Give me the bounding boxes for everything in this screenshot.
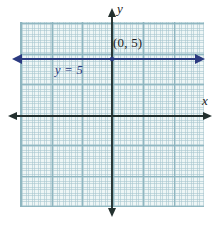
x-axis-right-arrowhead — [203, 112, 212, 120]
x-axis-left-arrowhead — [8, 112, 17, 120]
coordinate-plane-figure: y x (0, 5) y = 5 — [0, 0, 219, 228]
y-axis-label: y — [117, 2, 123, 15]
y-axis-top-arrowhead — [108, 8, 116, 17]
x-axis-label: x — [202, 94, 208, 107]
plot-line-right-arrowhead — [195, 54, 205, 64]
plot-line-y-equals-5 — [12, 54, 205, 64]
line-equation-label: y = 5 — [55, 64, 83, 77]
y-intercept-point-label: (0, 5) — [113, 36, 142, 49]
x-axis — [8, 112, 212, 120]
y-axis-bottom-arrowhead — [108, 208, 116, 217]
plot-line-left-arrowhead — [12, 54, 22, 64]
axes-and-plot-layer — [0, 0, 219, 228]
y-intercept-point-marker — [110, 57, 114, 61]
